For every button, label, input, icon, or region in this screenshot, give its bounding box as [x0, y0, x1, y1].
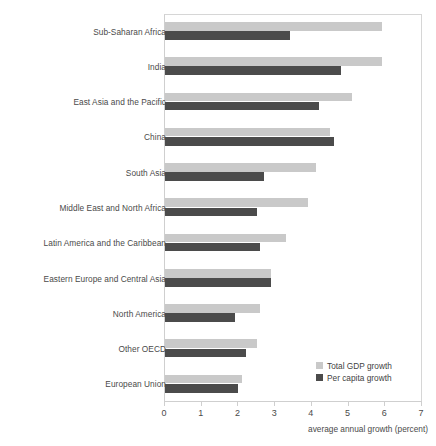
- x-tick-label: 2: [235, 408, 240, 418]
- bar-row: East Asia and the Pacific: [0, 85, 436, 120]
- bar-percap: [165, 278, 271, 287]
- x-tick-label: 1: [198, 408, 203, 418]
- bar-percap: [165, 102, 319, 111]
- category-label: Middle East and North Africa: [59, 203, 166, 213]
- x-tick: [311, 401, 312, 406]
- x-tick-label: 4: [308, 408, 313, 418]
- category-label: Latin America and the Caribbean: [44, 238, 166, 248]
- legend-swatch-total: [316, 362, 323, 369]
- chart-figure: Sub-Saharan AfricaIndiaEast Asia and the…: [0, 0, 436, 446]
- x-axis: 01234567: [164, 401, 422, 402]
- bar-percap: [165, 349, 246, 358]
- bar-total: [165, 93, 352, 102]
- legend-label: Total GDP growth: [327, 361, 392, 371]
- bar-total: [165, 304, 260, 313]
- bar-percap: [165, 208, 257, 217]
- bar-total: [165, 163, 316, 172]
- bar-group: [165, 120, 423, 155]
- bar-group: [165, 261, 423, 296]
- bar-percap: [165, 172, 264, 181]
- bar-row: North America: [0, 296, 436, 331]
- category-label: North America: [113, 309, 166, 319]
- category-label: East Asia and the Pacific: [73, 97, 166, 107]
- category-label: China: [144, 132, 166, 142]
- legend-swatch-percap: [316, 374, 323, 381]
- bar-row: Middle East and North Africa: [0, 190, 436, 225]
- legend-item: Total GDP growth: [316, 360, 426, 371]
- bar-total: [165, 339, 257, 348]
- bar-group: [165, 155, 423, 190]
- category-label: India: [148, 62, 166, 72]
- bar-total: [165, 234, 286, 243]
- x-tick-label: 5: [345, 408, 350, 418]
- x-tick: [237, 401, 238, 406]
- category-label: South Asia: [126, 168, 166, 178]
- bar-row: Eastern Europe and Central Asia: [0, 261, 436, 296]
- x-axis-title: average annual growth (percent): [308, 424, 428, 434]
- bar-row: Sub-Saharan Africa: [0, 14, 436, 49]
- x-tick-label: 0: [161, 408, 166, 418]
- category-label: Eastern Europe and Central Asia: [44, 274, 166, 284]
- bar-total: [165, 269, 271, 278]
- bar-group: [165, 296, 423, 331]
- category-label: Other OECD: [118, 344, 166, 354]
- x-tick-label: 6: [382, 408, 387, 418]
- legend-item: Per capita growth: [316, 372, 426, 383]
- bar-group: [165, 85, 423, 120]
- x-tick: [384, 401, 385, 406]
- bar-row: India: [0, 49, 436, 84]
- bar-percap: [165, 243, 260, 252]
- bar-rows-container: Sub-Saharan AfricaIndiaEast Asia and the…: [0, 14, 436, 402]
- category-label: Sub-Saharan Africa: [93, 27, 166, 37]
- legend-label: Per capita growth: [327, 373, 392, 383]
- x-tick: [164, 401, 165, 406]
- bar-percap: [165, 137, 334, 146]
- bar-total: [165, 375, 242, 384]
- chart-legend: Total GDP growthPer capita growth: [316, 360, 426, 384]
- bar-group: [165, 49, 423, 84]
- x-tick-label: 7: [418, 408, 423, 418]
- bar-group: [165, 226, 423, 261]
- x-tick: [348, 401, 349, 406]
- bar-row: Latin America and the Caribbean: [0, 226, 436, 261]
- bar-row: South Asia: [0, 155, 436, 190]
- bar-percap: [165, 66, 341, 75]
- x-tick: [201, 401, 202, 406]
- bar-total: [165, 198, 308, 207]
- bar-row: China: [0, 120, 436, 155]
- bar-total: [165, 22, 382, 31]
- x-tick-label: 3: [272, 408, 277, 418]
- bar-percap: [165, 31, 290, 40]
- bar-total: [165, 128, 330, 137]
- bar-total: [165, 57, 382, 66]
- bar-group: [165, 14, 423, 49]
- cropped-chart-title: [0, 0, 436, 7]
- category-label: European Union: [105, 379, 166, 389]
- x-tick: [421, 401, 422, 406]
- bar-percap: [165, 313, 235, 322]
- bar-percap: [165, 384, 238, 393]
- bar-group: [165, 190, 423, 225]
- x-tick: [274, 401, 275, 406]
